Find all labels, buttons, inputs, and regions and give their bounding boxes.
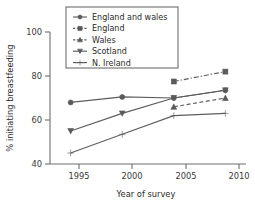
legend-label-0: England and wales xyxy=(92,13,167,22)
legend-label-4: N. Ireland xyxy=(92,59,131,68)
series-line-2 xyxy=(174,98,226,107)
y-tick-label-100: 100 xyxy=(26,27,42,37)
series-n-ireland xyxy=(67,110,228,156)
data-point-4-2 xyxy=(170,112,177,119)
series-scotland xyxy=(68,88,229,134)
line-chart: 100 80 60 40 1995 2000 2005 2010 Year of… xyxy=(0,0,255,205)
data-point-0-0 xyxy=(68,100,73,105)
y-tick-label-80: 80 xyxy=(31,71,42,81)
data-point-2-1 xyxy=(222,95,228,100)
x-tick-label-2005: 2005 xyxy=(175,171,196,181)
legend-label-1: England xyxy=(92,24,124,33)
y-tick-label-40: 40 xyxy=(31,159,42,169)
data-point-1-1 xyxy=(223,69,228,74)
x-tick-label-2000: 2000 xyxy=(121,171,142,181)
series-layer xyxy=(67,69,228,156)
data-point-4-3 xyxy=(222,110,229,117)
y-tick-label-60: 60 xyxy=(31,115,42,125)
x-tick-label-1995: 1995 xyxy=(68,171,89,181)
series-england xyxy=(171,69,228,84)
data-point-1-0 xyxy=(171,79,176,84)
legend-label-3: Scotland xyxy=(92,47,127,56)
series-england-and-wales xyxy=(68,88,228,105)
chart-container: 100 80 60 40 1995 2000 2005 2010 Year of… xyxy=(0,0,255,205)
data-point-3-0 xyxy=(68,129,74,134)
data-point-4-1 xyxy=(119,131,126,138)
data-point-4-0 xyxy=(67,150,74,157)
series-line-1 xyxy=(174,72,226,82)
legend-swatch-marker-0 xyxy=(78,15,82,19)
series-line-0 xyxy=(71,90,226,102)
series-line-4 xyxy=(71,113,226,153)
legend-label-2: Wales xyxy=(92,36,116,45)
x-tick-label-2010: 2010 xyxy=(228,171,249,181)
y-axis-title: % initiating breastfeeding xyxy=(5,44,15,151)
data-point-0-1 xyxy=(120,94,125,99)
legend-swatch-marker-1 xyxy=(78,26,82,30)
x-axis-title: Year of survey xyxy=(116,189,176,199)
